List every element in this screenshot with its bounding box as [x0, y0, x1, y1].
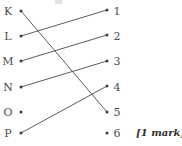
node-label-m: M: [2, 56, 13, 67]
node-label-n: N: [3, 82, 13, 93]
connection-line-p-to-4[interactable]: [21, 86, 107, 133]
connection-line-k-to-5[interactable]: [21, 11, 107, 112]
node-dot-k[interactable]: [20, 10, 23, 13]
node-label-3: 3: [114, 56, 121, 67]
matching-diagram-screenshot: KLMNOP 123456 [1 mark]: [0, 0, 182, 146]
connection-line-m-to-2[interactable]: [21, 35, 107, 61]
node-dot-o[interactable]: [20, 111, 23, 114]
connection-lines-layer: [0, 0, 182, 146]
node-label-5: 5: [114, 107, 121, 118]
node-dot-4[interactable]: [106, 85, 109, 88]
node-dot-3[interactable]: [106, 60, 109, 63]
node-dot-6[interactable]: [106, 132, 109, 135]
node-dot-n[interactable]: [20, 86, 23, 89]
node-dot-m[interactable]: [20, 60, 23, 63]
node-label-k: K: [4, 6, 12, 17]
node-label-p: P: [4, 128, 11, 139]
node-label-l: L: [4, 31, 11, 42]
node-label-6: 6: [114, 128, 121, 139]
node-label-4: 4: [114, 82, 121, 93]
node-dot-p[interactable]: [20, 132, 23, 135]
connection-line-n-to-3[interactable]: [21, 61, 107, 87]
node-dot-2[interactable]: [106, 34, 109, 37]
node-label-o: O: [3, 107, 12, 118]
node-label-2: 2: [114, 31, 121, 42]
node-dot-l[interactable]: [20, 35, 23, 38]
node-label-1: 1: [114, 6, 121, 17]
node-dot-5[interactable]: [106, 111, 109, 114]
connection-line-l-to-1[interactable]: [21, 10, 107, 36]
node-dot-1[interactable]: [106, 9, 109, 12]
mark-allocation-note: [1 mark]: [136, 127, 182, 138]
